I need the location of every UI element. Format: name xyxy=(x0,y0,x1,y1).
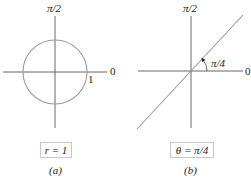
panel-a-caption: (a) xyxy=(49,165,62,176)
panel-a-label-pi-over-2: π/2 xyxy=(47,3,61,14)
panel-b-angle-arc xyxy=(203,60,207,71)
panel-b-label-zero: 0 xyxy=(245,66,251,77)
panel-a-equation-box: r = 1 xyxy=(40,142,72,158)
panel-a-label-zero: 0 xyxy=(110,66,116,77)
panel-b-graph xyxy=(137,15,243,129)
panel-a-label-radius-one: 1 xyxy=(88,74,94,85)
panel-a-graph xyxy=(3,16,107,128)
panel-b-label-angle: π/4 xyxy=(211,58,225,69)
panel-b-equation-box: θ = π/4 xyxy=(170,142,214,158)
panel-b-angle-line xyxy=(137,15,243,129)
panel-b-caption: (b) xyxy=(184,165,197,176)
panel-b-label-pi-over-2: π/2 xyxy=(183,3,197,14)
